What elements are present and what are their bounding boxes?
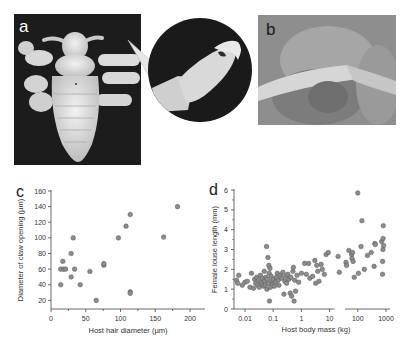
data-point — [264, 244, 269, 249]
data-point — [284, 281, 289, 286]
data-point — [287, 277, 292, 282]
data-point — [317, 279, 322, 284]
x-tick-label: 0.01 — [238, 315, 252, 322]
data-point — [273, 280, 278, 285]
data-point — [269, 274, 274, 279]
data-point — [380, 259, 385, 264]
data-point — [234, 278, 239, 283]
y-tick-label: 80 — [38, 250, 46, 257]
y-tick-label: 5 — [224, 206, 228, 213]
data-point — [369, 250, 374, 255]
data-point — [315, 269, 320, 274]
data-point — [279, 276, 284, 281]
data-point — [259, 280, 264, 285]
data-point — [264, 275, 269, 280]
data-point — [299, 271, 304, 276]
data-point — [379, 239, 384, 244]
y-tick-label: 60 — [38, 266, 46, 273]
data-point — [351, 259, 356, 264]
data-point — [256, 278, 261, 283]
data-point — [61, 259, 66, 264]
data-point — [267, 299, 272, 304]
louse-image — [14, 14, 141, 165]
data-point — [71, 236, 76, 241]
y-tick-label: 100 — [34, 234, 46, 241]
data-point — [102, 261, 107, 266]
claw-image — [148, 18, 252, 122]
data-point — [308, 276, 313, 281]
x-axis-label: Host body mass (kg) — [282, 325, 351, 334]
chart-d-points — [234, 191, 386, 304]
x-tick-label: 0 — [49, 315, 53, 322]
data-point — [313, 258, 318, 263]
data-point — [88, 269, 93, 274]
x-axis-label: Host hair diameter (µm) — [89, 326, 168, 335]
y-tick-label: 120 — [34, 219, 46, 226]
data-point — [281, 270, 286, 275]
data-point — [288, 275, 293, 280]
chart-c-points — [58, 204, 179, 302]
data-point — [291, 269, 296, 274]
chart-c-axes: 20406080100120140160050100150200Host hai… — [16, 188, 205, 336]
data-point — [291, 265, 296, 270]
data-point — [350, 250, 355, 255]
data-point — [324, 252, 329, 257]
data-point — [275, 271, 280, 276]
data-point — [266, 255, 271, 260]
data-point — [314, 263, 319, 268]
data-point — [283, 279, 288, 284]
data-point — [128, 212, 133, 217]
claw-hair-image — [258, 15, 396, 125]
data-point — [381, 236, 386, 241]
data-point — [274, 275, 279, 280]
x-tick-label: 100 — [352, 315, 364, 322]
y-tick-label: 6 — [224, 187, 228, 194]
data-point — [128, 291, 133, 296]
data-point — [78, 282, 83, 287]
data-point — [69, 275, 74, 280]
data-point — [271, 277, 276, 282]
y-axis-label: Diameter of claw opening (µm) — [16, 198, 25, 301]
claw-inset-circle — [148, 18, 252, 122]
data-point — [286, 272, 291, 277]
data-point — [359, 244, 364, 249]
panel-b-label: b — [266, 21, 275, 38]
y-tick-label: 160 — [34, 188, 46, 195]
data-point — [262, 269, 267, 274]
data-point — [252, 277, 257, 282]
data-point — [372, 241, 377, 246]
x-tick-label: 1000 — [378, 315, 394, 322]
data-point — [240, 283, 245, 288]
data-point — [284, 274, 289, 279]
data-point — [258, 273, 263, 278]
data-point — [313, 281, 318, 286]
data-point — [296, 280, 301, 285]
data-point — [58, 282, 63, 287]
data-point — [381, 247, 386, 252]
data-point — [265, 277, 270, 282]
data-point — [270, 279, 275, 284]
data-point — [266, 281, 271, 286]
data-point — [257, 285, 262, 290]
data-point — [288, 291, 293, 296]
panel-a-micrograph: a — [14, 14, 141, 165]
data-point — [277, 283, 282, 288]
data-point — [360, 218, 365, 223]
data-point — [116, 236, 121, 241]
y-tick-label: 20 — [38, 297, 46, 304]
data-point — [336, 254, 341, 259]
data-point — [304, 272, 309, 277]
data-point — [319, 262, 324, 267]
y-axis-label: Female louse length (mm) — [210, 205, 219, 293]
y-tick-label: 4 — [224, 226, 228, 233]
data-point — [255, 283, 260, 288]
data-point — [251, 286, 256, 291]
data-point — [260, 282, 265, 287]
x-tick-label: 10 — [326, 315, 334, 322]
data-point — [347, 248, 352, 253]
data-point — [310, 274, 315, 279]
data-point — [175, 204, 180, 209]
panel-a-label: a — [19, 18, 28, 35]
data-point — [356, 191, 361, 196]
data-point — [235, 281, 240, 286]
